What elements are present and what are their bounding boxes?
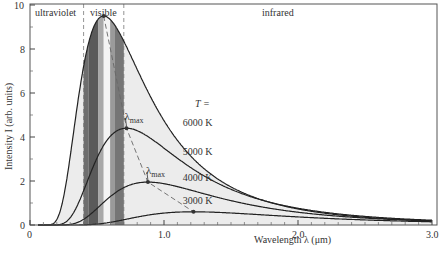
spectrum-stripe xyxy=(84,0,89,225)
x-tick-label: 3.0 xyxy=(426,229,439,240)
y-tick-label: 4 xyxy=(20,132,25,143)
peak-marker xyxy=(191,210,195,214)
region-label-infrared: infrared xyxy=(262,7,294,18)
peak-marker xyxy=(146,180,150,184)
legend-header: T = xyxy=(195,98,210,109)
blackbody-spectrum-chart: λmaxλmax 01.02.03.00246810 ultravioletvi… xyxy=(0,0,443,253)
y-tick-label: 0 xyxy=(20,220,25,231)
region-label-visible: visible xyxy=(90,7,117,18)
curve-label: 6000 K xyxy=(183,117,214,128)
y-tick-label: 8 xyxy=(20,44,25,55)
y-axis-label: Intensity I (arb. units) xyxy=(3,83,15,170)
curve-label: 4000 K xyxy=(183,172,214,183)
x-axis-label: Wavelength λ (μm) xyxy=(254,234,331,246)
curve-label: 3000 K xyxy=(183,195,214,206)
spectrum-stripe xyxy=(88,0,98,225)
peak-marker xyxy=(124,126,128,130)
curve-label: 5000 K xyxy=(183,146,214,157)
y-tick-label: 6 xyxy=(20,88,25,99)
x-tick-label: 1.0 xyxy=(158,229,171,240)
spectrum-stripe xyxy=(98,0,104,225)
region-label-ultraviolet: ultraviolet xyxy=(35,7,76,18)
y-tick-label: 2 xyxy=(20,176,25,187)
spectrum-stripe xyxy=(110,0,115,225)
y-tick-label: 10 xyxy=(14,0,24,11)
x-tick-label: 0 xyxy=(27,229,32,240)
